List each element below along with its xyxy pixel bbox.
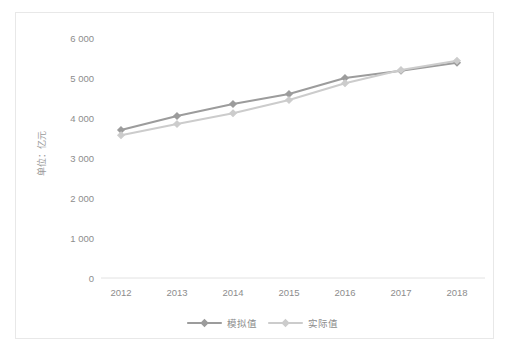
data-point[interactable] — [286, 97, 292, 103]
y-tick-label-6000: 6 000 — [70, 33, 94, 44]
x-tick-label-2018: 2018 — [446, 287, 467, 298]
x-tick-label-2013: 2013 — [166, 287, 187, 298]
y-tick-label-5000: 5 000 — [70, 73, 94, 84]
x-tick-label-2012: 2012 — [110, 287, 131, 298]
y-tick-label-4000: 4 000 — [70, 113, 94, 124]
y-tick-label-3000: 3 000 — [70, 153, 94, 164]
legend-label-0: 模拟值 — [227, 318, 257, 329]
legend-item-1[interactable]: 实际值 — [269, 318, 338, 329]
legend-label-1: 实际值 — [308, 318, 338, 329]
series-2 — [118, 58, 460, 139]
data-point[interactable] — [174, 113, 180, 119]
y-tick-label-0: 0 — [89, 273, 94, 284]
chart-frame: 单位：亿元 6 000 5 000 4 000 3 000 2 000 1 00… — [15, 12, 494, 339]
data-point[interactable] — [230, 101, 236, 107]
line-chart-figure: 单位：亿元 6 000 5 000 4 000 3 000 2 000 1 00… — [0, 0, 510, 354]
chart-plot-area: 单位：亿元 6 000 5 000 4 000 3 000 2 000 1 00… — [16, 13, 493, 338]
data-point[interactable] — [118, 132, 124, 138]
x-tick-label-2015: 2015 — [278, 287, 299, 298]
y-axis-title: 单位：亿元 — [36, 131, 47, 176]
data-point[interactable] — [230, 110, 236, 116]
data-point[interactable] — [342, 80, 348, 86]
x-tick-label-2016: 2016 — [334, 287, 355, 298]
x-tick-label-2014: 2014 — [222, 287, 243, 298]
chart-legend: 模拟值 实际值 — [188, 318, 338, 329]
legend-item-0[interactable]: 模拟值 — [188, 318, 257, 329]
legend-swatch-marker-1 — [282, 320, 289, 327]
data-point[interactable] — [174, 121, 180, 127]
legend-swatch-marker-0 — [201, 320, 208, 327]
y-tick-label-1000: 1 000 — [70, 233, 94, 244]
x-tick-label-2017: 2017 — [390, 287, 411, 298]
series-layer — [118, 58, 460, 139]
y-tick-label-2000: 2 000 — [70, 193, 94, 204]
